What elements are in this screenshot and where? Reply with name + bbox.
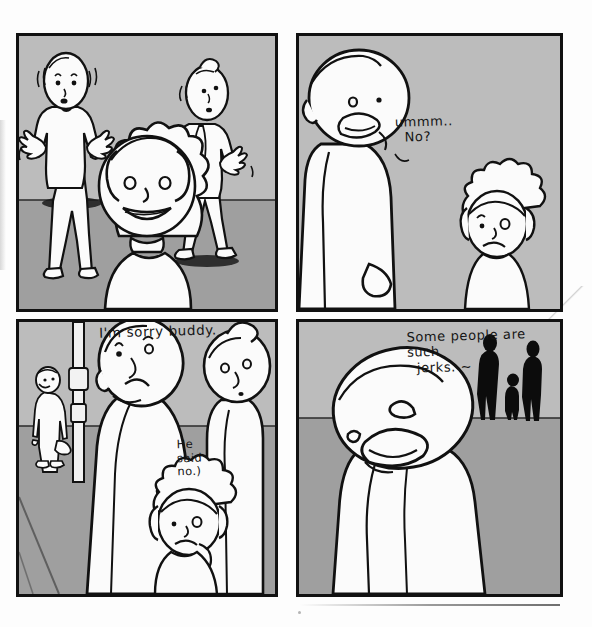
head (204, 330, 270, 402)
paper-speck (298, 611, 301, 614)
head (186, 66, 228, 120)
eye-left (172, 522, 177, 527)
comic-panel-3: I'm sorry buddy. He said no.) (16, 319, 278, 597)
eye-right (160, 177, 171, 189)
open-mouth (61, 98, 68, 103)
eye-right (243, 360, 251, 369)
eye-left (56, 81, 61, 86)
body (333, 450, 485, 594)
eye-left (202, 89, 207, 94)
eye-right (501, 219, 510, 229)
eye-right (214, 86, 219, 91)
panel-4-artwork (299, 322, 560, 594)
panel-2-artwork (299, 36, 560, 309)
shoe-right (216, 248, 236, 258)
mouth (238, 392, 243, 396)
eye-left (125, 177, 136, 189)
comic-panel-4: Some people are such jerks. ~ (296, 319, 563, 597)
eye-left (349, 98, 357, 107)
eye-left (116, 351, 122, 357)
eye-right (193, 517, 202, 527)
eye-right (348, 431, 360, 442)
panel-3-artwork (19, 322, 275, 594)
frowning-muzzle (338, 113, 379, 137)
shoe-left (175, 249, 194, 259)
comic-panel-2: ummm.. No? (296, 33, 563, 312)
comic-panel-grid: ummm.. No? (16, 33, 563, 597)
comic-page: ummm.. No? (0, 0, 592, 627)
eye-right (145, 345, 153, 354)
shoe-right (79, 268, 98, 278)
pole-fitting-upper (69, 368, 88, 390)
comic-panel-1 (16, 33, 278, 312)
eye-right (72, 81, 77, 86)
shoe-right (50, 461, 64, 468)
paper-bottom-smudge (300, 604, 560, 606)
eye-right (376, 97, 381, 102)
open-mouth (206, 108, 212, 113)
eye-right (51, 377, 54, 380)
glum-adult-closeup (324, 337, 485, 594)
panel-1-artwork (19, 36, 275, 309)
eye-left (480, 224, 485, 229)
eye-left (221, 364, 229, 373)
pole-shaft (73, 322, 84, 482)
shoe-left (36, 461, 49, 468)
pole-fitting-lower (71, 404, 86, 422)
head (36, 367, 60, 393)
hand-left (32, 440, 38, 445)
eye-left (43, 378, 46, 381)
shoe-left (44, 268, 63, 278)
paper-edge-smudge (0, 120, 6, 270)
silhouette-adult-left-head (483, 334, 497, 352)
silhouette-adult-right-head (527, 341, 540, 358)
silhouette-child-head (507, 374, 519, 387)
